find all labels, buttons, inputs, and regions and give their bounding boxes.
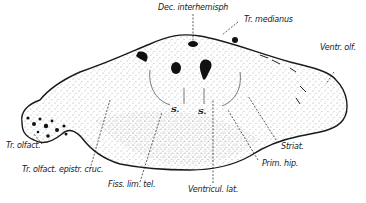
anatomical-figure: Dec. interhemisph Tr. medianus Ventr. ol…	[0, 0, 366, 203]
label-s-left: S.	[171, 104, 179, 114]
label-dec-interhemisph: Dec. interhemisph	[158, 4, 228, 12]
label-tr-olfact: Tr. olfact.	[6, 142, 41, 150]
label-fiss-lim-tel: Fiss. lim. tel.	[108, 181, 155, 189]
label-tr-olfact-epistr-cruc: Tr. olfact. epistr. cruc.	[22, 166, 103, 174]
label-tr-medianus: Tr. medianus	[244, 16, 293, 24]
label-s-right: S.	[198, 106, 206, 116]
label-prim-hip: Prim. hip.	[262, 160, 298, 168]
label-ventr-olf: Ventr. olf.	[320, 44, 356, 52]
label-ventricul-lat: Ventricul. lat.	[188, 186, 238, 194]
label-striat: Striat.	[281, 143, 304, 151]
